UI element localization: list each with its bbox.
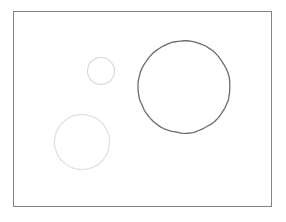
figure-svg <box>0 0 286 222</box>
figure-canvas <box>0 0 286 222</box>
canvas-background <box>0 0 286 222</box>
